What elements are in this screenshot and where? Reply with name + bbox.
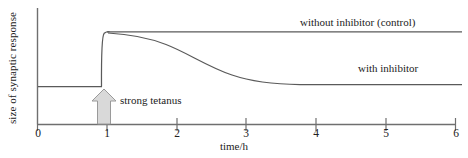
x-tick-label-0: 0	[28, 127, 48, 139]
annotation-label-strong-tetanus: strong tetanus	[120, 94, 181, 106]
chart-figure: size of synaptic response time/h 0 1 2 3…	[0, 0, 468, 158]
x-tick-label-4: 4	[306, 127, 326, 139]
x-tick-label-6: 6	[446, 127, 466, 139]
series-label-with-inhibitor: with inhibitor	[358, 62, 418, 74]
x-tick-label-2: 2	[167, 127, 187, 139]
series-tetanus-rise	[101, 32, 109, 87]
x-axis-title: time/h	[0, 140, 468, 152]
strong-tetanus-arrow-icon	[92, 89, 116, 124]
series-with-inhibitor	[108, 33, 462, 85]
x-tick-label-5: 5	[376, 127, 396, 139]
y-axis-title: size of synaptic response	[6, 0, 18, 138]
x-tick-label-1: 1	[97, 127, 117, 139]
series-label-without-inhibitor: without inhibitor (control)	[300, 16, 415, 28]
x-tick-label-3: 3	[236, 127, 256, 139]
